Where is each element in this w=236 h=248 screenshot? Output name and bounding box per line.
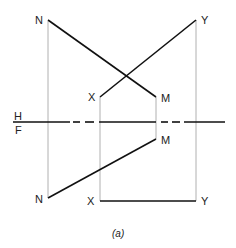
label-f: F	[15, 124, 22, 136]
line-nm-front	[48, 139, 156, 198]
label-m-front: M	[161, 134, 170, 146]
label-x-front: X	[87, 195, 95, 207]
label-x-top: X	[88, 91, 96, 103]
label-m-top: M	[161, 92, 170, 104]
caption: (a)	[112, 228, 124, 239]
label-y-top: Y	[201, 14, 209, 26]
label-n-top: N	[35, 14, 43, 26]
label-y-front: Y	[201, 195, 209, 207]
line-nm-top	[48, 20, 156, 97]
orthographic-projection-diagram: H F N X M Y N X M Y (a)	[0, 0, 236, 248]
label-h: H	[14, 110, 22, 122]
label-n-front: N	[35, 193, 43, 205]
line-xy-top	[100, 20, 196, 97]
